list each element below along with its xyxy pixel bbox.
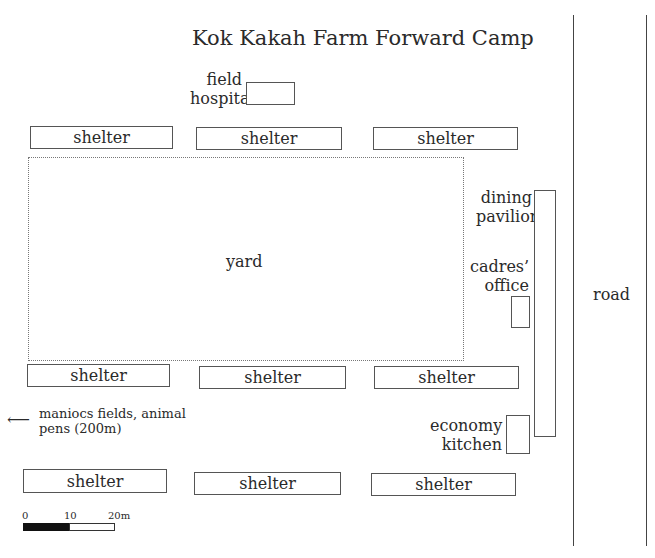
dining-pavilion-label-line1: dining	[476, 188, 532, 207]
dining-pavilion-label-line2: pavilion	[476, 207, 532, 226]
shelter-label: shelter	[73, 128, 130, 147]
scale-tick-10: 10	[64, 510, 77, 521]
scale-bar-filled	[23, 523, 69, 531]
shelter-label: shelter	[239, 474, 296, 493]
economy-kitchen-label-line1: economy	[430, 416, 502, 435]
left-arrow-icon: ⟵	[7, 410, 30, 429]
shelter-top-3: shelter	[373, 127, 518, 150]
shelter-label: shelter	[418, 368, 475, 387]
shelter-label: shelter	[244, 368, 301, 387]
economy-kitchen-building	[506, 415, 530, 454]
field-hospital-label-line2: hospital	[190, 89, 242, 108]
economy-kitchen-label-line2: kitchen	[430, 435, 502, 454]
title-text: Kok Kakah Farm Forward Camp	[192, 26, 534, 50]
economy-kitchen-label: economy kitchen	[430, 416, 502, 454]
shelter-bottom-2: shelter	[194, 472, 341, 495]
cadres-office-label-line2: office	[470, 276, 529, 295]
direction-note: maniocs fields, animal pens (200m)	[39, 406, 186, 436]
shelter-label: shelter	[67, 472, 124, 491]
shelter-label: shelter	[70, 366, 127, 385]
cadres-office-label: cadres’ office	[470, 257, 529, 295]
shelter-top-2: shelter	[196, 127, 342, 150]
field-hospital-label-line1: field	[190, 70, 242, 89]
scale-bar: 0 10 20m	[22, 510, 122, 534]
field-hospital-building	[246, 82, 295, 105]
scale-tick-20m: 20m	[108, 510, 130, 521]
shelter-label: shelter	[417, 129, 474, 148]
shelter-middle-3: shelter	[374, 366, 519, 389]
scale-tick-0: 0	[22, 510, 28, 521]
shelter-bottom-3: shelter	[371, 473, 516, 496]
shelter-label: shelter	[415, 475, 472, 494]
direction-note-line2: pens (200m)	[39, 421, 186, 436]
road-label: road	[593, 285, 630, 304]
road-edge-left	[573, 15, 574, 546]
shelter-bottom-1: shelter	[23, 469, 167, 493]
road-edge-right	[646, 15, 647, 546]
yard-label: yard	[226, 252, 262, 271]
shelter-label: shelter	[241, 129, 298, 148]
direction-note-line1: maniocs fields, animal	[39, 406, 186, 421]
field-hospital-label: field hospital	[190, 70, 242, 108]
scale-bar-empty	[69, 523, 115, 531]
dining-pavilion-building	[534, 190, 556, 437]
shelter-top-1: shelter	[30, 126, 173, 149]
shelter-middle-2: shelter	[199, 366, 346, 389]
shelter-middle-1: shelter	[27, 364, 170, 387]
dining-pavilion-label: dining pavilion	[476, 188, 532, 226]
cadres-office-building	[511, 296, 530, 328]
cadres-office-label-line1: cadres’	[470, 257, 529, 276]
